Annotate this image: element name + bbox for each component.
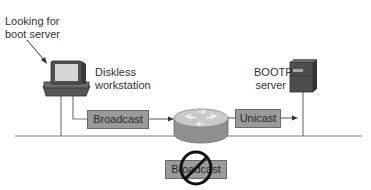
workstation-label-line2: workstation [95, 79, 151, 92]
server-label-line1: BOOTP [254, 66, 286, 79]
broadcast-packet: Broadcast [87, 110, 149, 129]
router-icon [174, 109, 228, 143]
unicast-packet: Unicast [235, 109, 281, 128]
server-label: BOOTP server [254, 66, 286, 92]
workstation-label-line1: Diskless [95, 66, 151, 79]
workstation-label: Diskless workstation [95, 66, 151, 92]
annotation-line2: boot server [5, 28, 60, 41]
desktop-computer-icon [43, 61, 90, 96]
unicast-packet-label: Unicast [240, 112, 277, 124]
prohibited-icon [178, 149, 214, 187]
annotation-label: Looking for boot server [5, 15, 60, 41]
server-label-line2: server [254, 79, 286, 92]
annotation-line1: Looking for [5, 15, 60, 28]
server-tower-icon [290, 59, 317, 92]
broadcast-packet-label: Broadcast [93, 113, 143, 125]
